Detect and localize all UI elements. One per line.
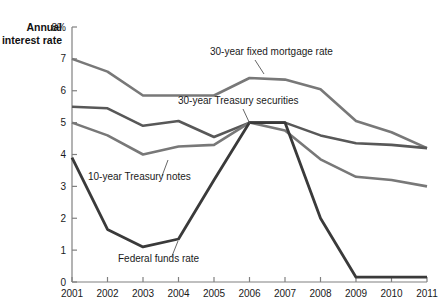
x-tick-label-2011: 2011 <box>416 288 438 299</box>
x-axis-ticks: 2001200220032004200520062007200820092010… <box>61 277 438 299</box>
series-leader-1 <box>243 109 250 124</box>
x-tick-label-2003: 2003 <box>132 288 155 299</box>
y-tick-label-8: 8% <box>52 22 67 33</box>
y-tick-label-3: 3 <box>60 181 66 192</box>
x-tick-label-2010: 2010 <box>380 288 403 299</box>
y-axis-ticks: 012345678% <box>52 22 77 288</box>
x-tick-label-2008: 2008 <box>309 288 332 299</box>
x-tick-label-2001: 2001 <box>61 288 84 299</box>
y-tick-label-7: 7 <box>60 53 66 64</box>
series-lines <box>72 59 427 277</box>
y-tick-label-2: 2 <box>60 213 66 224</box>
series-label-2: 10-year Treasury notes <box>88 171 191 182</box>
chart-svg: Annual interest rate 012345678% 20012002… <box>0 0 443 306</box>
series-label-1: 30-year Treasury securities <box>178 95 299 106</box>
series-label-0: 30-year fixed mortgage rate <box>210 46 333 57</box>
y-tick-label-4: 4 <box>60 149 66 160</box>
y-tick-label-6: 6 <box>60 85 66 96</box>
x-tick-label-2006: 2006 <box>238 288 261 299</box>
x-tick-label-2007: 2007 <box>274 288 297 299</box>
y-axis-title-line2: interest rate <box>2 34 62 46</box>
y-tick-label-0: 0 <box>60 277 66 288</box>
x-tick-label-2009: 2009 <box>345 288 368 299</box>
x-tick-label-2004: 2004 <box>167 288 190 299</box>
y-tick-label-5: 5 <box>60 117 66 128</box>
series-label-3: Federal funds rate <box>118 253 200 264</box>
x-tick-label-2002: 2002 <box>96 288 119 299</box>
x-tick-label-2005: 2005 <box>203 288 226 299</box>
interest-rate-line-chart: Annual interest rate 012345678% 20012002… <box>0 0 443 306</box>
y-tick-label-1: 1 <box>60 245 66 256</box>
series-leader-0 <box>255 60 264 74</box>
